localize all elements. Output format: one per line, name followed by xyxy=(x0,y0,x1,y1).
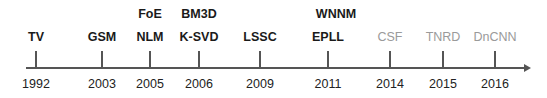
tick-2003 xyxy=(101,51,103,68)
method-label: DnCNN xyxy=(473,30,516,44)
year-label: 2003 xyxy=(88,77,116,91)
year-label: 2014 xyxy=(376,77,404,91)
tick-2006 xyxy=(198,51,200,68)
tick-1992 xyxy=(35,51,37,68)
arrow-head-icon xyxy=(524,64,531,72)
method-label: NLM xyxy=(136,30,163,44)
tick-2016 xyxy=(494,51,496,68)
tick-2011 xyxy=(327,51,329,68)
year-label: 2009 xyxy=(246,77,274,91)
year-label: 2006 xyxy=(185,77,213,91)
tick-2015 xyxy=(442,51,444,68)
tick-2014 xyxy=(389,51,391,68)
method-label: LSSC xyxy=(243,30,276,44)
method-label: CSF xyxy=(378,30,403,44)
year-label: 2015 xyxy=(429,77,457,91)
method-label: TNRD xyxy=(426,30,461,44)
year-label: 2011 xyxy=(315,77,342,91)
method-label: WNNM xyxy=(316,7,356,21)
method-label: FoE xyxy=(138,7,162,21)
method-label: EPLL xyxy=(312,30,344,44)
year-label: 2016 xyxy=(481,77,509,91)
method-label: K-SVD xyxy=(180,30,219,44)
year-label: 2005 xyxy=(136,77,164,91)
method-label: GSM xyxy=(88,30,116,44)
year-label: 1992 xyxy=(22,77,50,91)
tick-2009 xyxy=(259,51,261,68)
tick-2005 xyxy=(149,51,151,68)
method-label: BM3D xyxy=(181,7,216,21)
method-label: TV xyxy=(28,30,44,44)
